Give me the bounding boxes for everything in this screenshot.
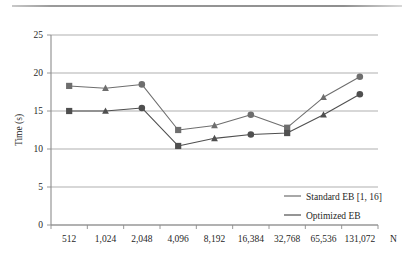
data-point-marker [248, 131, 255, 138]
data-point-marker [66, 108, 72, 114]
data-point-marker [284, 125, 290, 131]
data-point-marker [66, 83, 72, 89]
y-tick-label: 10 [34, 144, 44, 154]
legend-label: Standard EB [1, 16] [306, 192, 382, 202]
y-tick-label: 25 [34, 30, 44, 40]
x-tick-label: 131,072 [344, 234, 375, 244]
data-point-marker [175, 127, 181, 133]
data-point-marker [139, 81, 146, 88]
y-axis-title: Time (s) [14, 114, 25, 146]
x-tick-label: 2,048 [131, 234, 153, 244]
data-point-marker [357, 74, 364, 81]
legend-label: Optimized EB [306, 211, 361, 221]
data-point-marker [357, 91, 364, 98]
data-point-marker [320, 94, 327, 100]
x-tick-label: 512 [62, 234, 77, 244]
y-tick-label: 0 [38, 220, 43, 230]
line-chart: 0510152025 5121,0242,0484,0968,19216,384… [0, 0, 411, 264]
chart-legend: Standard EB [1, 16]Optimized EB [284, 192, 382, 221]
x-tick-label: 65,536 [310, 234, 336, 244]
x-tick-label: 1,024 [95, 234, 117, 244]
x-tick-label: 32,768 [274, 234, 300, 244]
x-axis-unit-label: N [390, 234, 397, 244]
legend-item[interactable]: Optimized EB [284, 211, 361, 221]
y-axis [47, 35, 51, 225]
data-point-marker [248, 112, 255, 119]
series-2 [66, 91, 363, 149]
data-point-marker [175, 143, 181, 149]
data-point-marker [320, 111, 327, 117]
data-point-marker [139, 105, 146, 112]
y-tick-label: 5 [38, 182, 43, 192]
x-axis [51, 225, 378, 229]
y-tick-label: 20 [34, 68, 44, 78]
series-1 [66, 74, 363, 134]
x-tick-label: 8,192 [204, 234, 226, 244]
legend-item[interactable]: Standard EB [1, 16] [284, 192, 382, 202]
x-tick-labels: 5121,0242,0484,0968,19216,38432,76865,53… [62, 234, 375, 244]
data-point-marker [284, 130, 290, 136]
x-tick-label: 4,096 [167, 234, 189, 244]
y-tick-labels: 0510152025 [34, 30, 44, 230]
y-tick-label: 15 [34, 106, 44, 116]
x-tick-label: 16,384 [238, 234, 264, 244]
chart-canvas: 0510152025 5121,0242,0484,0968,19216,384… [0, 0, 411, 264]
